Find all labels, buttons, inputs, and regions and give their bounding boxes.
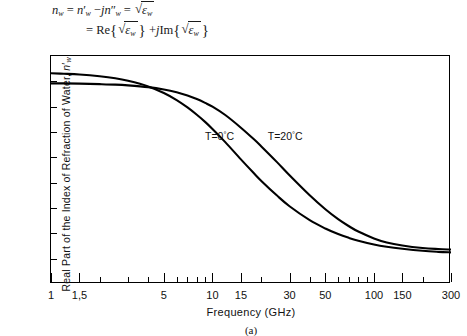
curve-label-suffix-1: C	[295, 130, 303, 142]
eq-equals-3: =	[86, 23, 93, 37]
figure-caption: (a)	[51, 324, 451, 336]
curve-label-0: T=0°C	[205, 130, 234, 142]
x-tick-label-10: 10	[206, 289, 218, 301]
eq-minus: −	[94, 3, 101, 17]
eq-lbrace-1: {	[110, 22, 117, 38]
eq-sqrt-epsilon-3: εw	[182, 22, 201, 42]
eq-equals-2: =	[124, 3, 131, 17]
x-tick-label-15: 15	[235, 289, 247, 301]
x-tick-label-5: 5	[161, 289, 167, 301]
x-tick-label-1,5: 1,5	[72, 289, 87, 301]
curve-T-0-C	[51, 73, 451, 252]
eq-plus: +	[149, 23, 156, 37]
curve-label-prefix-1: T=20	[268, 130, 292, 142]
eq-sub-w: w	[58, 9, 63, 18]
curve-T-20-C	[51, 83, 451, 249]
curve-label-prefix-0: T=0	[205, 130, 223, 142]
equation-block: nw = n′w −jn″w = εw = Re{εw} +jIm{εw}	[52, 2, 382, 42]
eq-sub-w-2: w	[85, 9, 90, 18]
eq-im-operator: Im	[159, 23, 173, 37]
eq-re-operator: Re	[96, 23, 110, 37]
eq-sqrt-epsilon-1: εw	[135, 2, 154, 22]
x-axis-title: Frequency (GHz)	[51, 306, 451, 318]
chart-curves	[51, 56, 451, 284]
x-tickmark-300	[451, 273, 452, 282]
x-tick-label-150: 150	[393, 289, 411, 301]
eq-sub-w-3: w	[115, 9, 120, 18]
equation-line-1: nw = n′w −jn″w = εw	[52, 2, 382, 22]
equation-line-2: = Re{εw} +jIm{εw}	[52, 22, 382, 42]
curve-label-1: T=20°C	[268, 130, 303, 142]
eq-epsilon-sub-2: w	[130, 29, 135, 38]
curve-label-suffix-0: C	[226, 130, 234, 142]
x-tick-label-100: 100	[365, 289, 383, 301]
eq-rbrace-1: }	[139, 22, 146, 38]
x-tick-label-300: 300	[442, 289, 460, 301]
eq-lbrace-2: {	[173, 22, 180, 38]
chart-plot-area: Real Part of the Index of Refraction of …	[50, 55, 450, 283]
eq-rbrace-2: }	[202, 22, 209, 38]
x-tick-label-50: 50	[319, 289, 331, 301]
eq-sqrt-epsilon-2: εw	[118, 22, 137, 42]
eq-equals-1: =	[67, 3, 74, 17]
eq-epsilon-sub-3: w	[193, 29, 198, 38]
eq-epsilon-sub-1: w	[147, 9, 152, 18]
x-tick-label-1: 1	[48, 289, 54, 301]
x-tick-label-30: 30	[283, 289, 295, 301]
